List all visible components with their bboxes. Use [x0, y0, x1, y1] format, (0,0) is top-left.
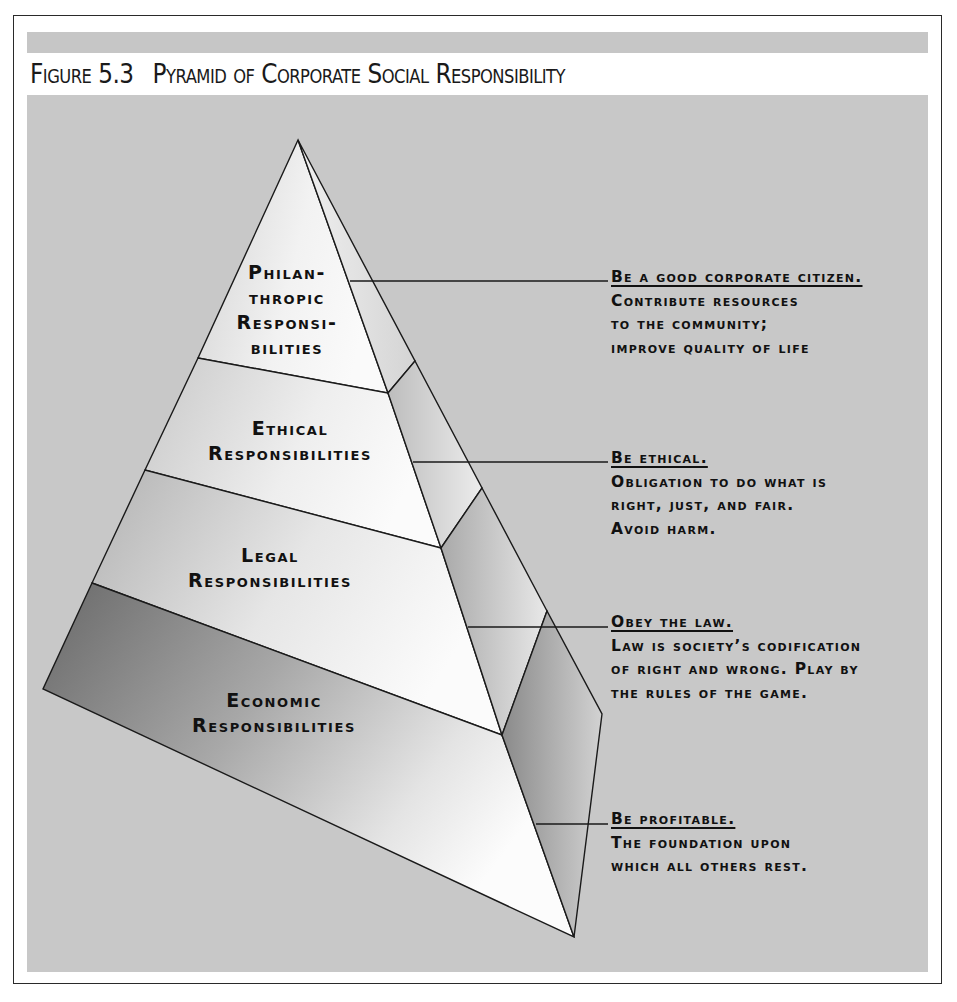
- note-philanthropic: Be a good corporate citizen. Contribute …: [611, 266, 863, 360]
- note-economic: Be profitable. The foundation upon which…: [611, 808, 808, 879]
- note-line: The foundation upon: [611, 832, 808, 856]
- note-line: which all others rest.: [611, 855, 808, 879]
- label-line: Responsibilities: [164, 713, 384, 738]
- note-line: right, just, and fair.: [611, 494, 827, 518]
- note-legal: Obey the law. Law is society’s codificat…: [611, 611, 861, 705]
- label-line: thropic: [222, 285, 352, 310]
- label-line: Economic: [164, 688, 384, 713]
- note-line: of right and wrong. Play by: [611, 658, 861, 682]
- note-line: Avoid harm.: [611, 518, 827, 542]
- note-line: Contribute resources: [611, 290, 863, 314]
- note-line: Obligation to do what is: [611, 471, 827, 495]
- label-line: Philan-: [222, 260, 352, 285]
- label-line: bilities: [222, 335, 352, 360]
- note-line: Law is society’s codification: [611, 635, 861, 659]
- label-legal: Legal Responsibilities: [160, 543, 380, 593]
- note-line: to the community;: [611, 313, 863, 337]
- label-ethical: Ethical Responsibilities: [180, 416, 400, 466]
- label-line: Ethical: [180, 416, 400, 441]
- note-heading: Be a good corporate citizen.: [611, 266, 863, 290]
- note-heading: Be profitable.: [611, 808, 808, 832]
- note-heading: Be ethical.: [611, 447, 827, 471]
- label-philanthropic: Philan- thropic Responsi- bilities: [222, 260, 352, 360]
- label-economic: Economic Responsibilities: [164, 688, 384, 738]
- note-ethical: Be ethical. Obligation to do what is rig…: [611, 447, 827, 541]
- label-line: Legal: [160, 543, 380, 568]
- label-line: Responsibilities: [160, 568, 380, 593]
- label-line: Responsi-: [222, 310, 352, 335]
- note-line: the rules of the game.: [611, 682, 861, 706]
- label-line: Responsibilities: [180, 441, 400, 466]
- note-line: improve quality of life: [611, 337, 863, 361]
- note-heading: Obey the law.: [611, 611, 861, 635]
